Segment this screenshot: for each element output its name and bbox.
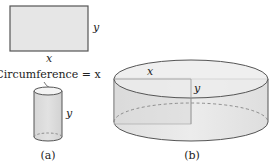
cylinder-height-label: y <box>65 107 73 120</box>
panel-a: x y Circumference = x y (a) <box>0 6 101 162</box>
small-cylinder <box>34 87 62 141</box>
panel-b-label: (b) <box>184 149 200 162</box>
sheet-width-label: x <box>147 65 154 78</box>
large-cylinder <box>114 60 268 141</box>
rect-height-label: y <box>92 21 100 34</box>
sheet-height-label: y <box>193 82 201 95</box>
flat-rectangle <box>10 6 88 51</box>
circumference-label: Circumference = x <box>0 68 101 81</box>
rect-width-label: x <box>46 52 53 65</box>
figure: x y Circumference = x y (a) x y <box>0 0 276 167</box>
panel-a-label: (a) <box>40 149 55 162</box>
panel-b: x y (b) <box>114 60 268 162</box>
